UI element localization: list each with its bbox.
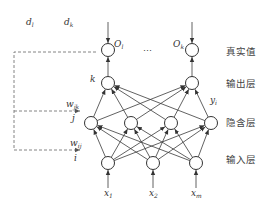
weight-label-ij: wij — [70, 138, 82, 150]
hidden-node-3 — [205, 117, 218, 130]
feedback-line-output — [14, 52, 96, 150]
target-ellipsis: … — [143, 43, 152, 53]
input-label-xm: xm — [191, 188, 202, 199]
edge-input-2-hidden-3 — [198, 130, 208, 157]
edge-hidden-0-output-0 — [94, 89, 106, 117]
output-node-1 — [186, 77, 199, 90]
output-edge-label-y: yi — [209, 95, 217, 106]
input-node-0 — [102, 157, 115, 170]
target-node-0 — [102, 44, 115, 57]
layer-label-output: 输出层 — [226, 78, 256, 89]
network-nodes — [85, 44, 218, 170]
target-node-1 — [186, 44, 199, 57]
layer-label-target: 真实值 — [226, 46, 256, 57]
edge-hidden-2-output-0 — [114, 87, 166, 120]
output-index-label: k — [90, 74, 95, 84]
target-label-k: Ok — [173, 39, 184, 50]
hidden-node-2 — [165, 117, 178, 130]
hidden-index-label: j — [70, 113, 75, 123]
edge-hidden-0-output-1 — [97, 86, 185, 121]
error-label-l: dl — [26, 17, 34, 28]
edge-input-0-hidden-1 — [111, 129, 127, 157]
layer-label-hidden: 隐含层 — [226, 117, 256, 128]
hidden-node-1 — [125, 117, 138, 130]
weight-label-jk: wjk — [66, 99, 80, 111]
output-node-0 — [102, 77, 115, 90]
target-label-l: Ol — [114, 39, 123, 50]
input-index-label: i — [74, 153, 77, 163]
edge-hidden-1-output-1 — [136, 87, 186, 120]
hidden-node-0 — [85, 117, 98, 130]
input-node-2 — [190, 157, 203, 170]
edge-hidden-1-output-0 — [111, 89, 127, 117]
edge-hidden-3-output-1 — [195, 89, 208, 117]
error-feedback-paths — [14, 52, 96, 150]
input-label-x1: x1 — [104, 188, 113, 199]
layer-label-input: 输入层 — [226, 154, 256, 165]
edge-input-0-hidden-0 — [94, 129, 106, 157]
bp-neural-network-diagram: dl dk Ol … Ok k wjk j wij i yi x1 x2 xm … — [0, 0, 266, 210]
error-label-k: dk — [64, 17, 74, 28]
edge-input-1-hidden-2 — [156, 129, 168, 157]
input-node-1 — [147, 157, 160, 170]
input-label-x2: x2 — [149, 188, 158, 199]
